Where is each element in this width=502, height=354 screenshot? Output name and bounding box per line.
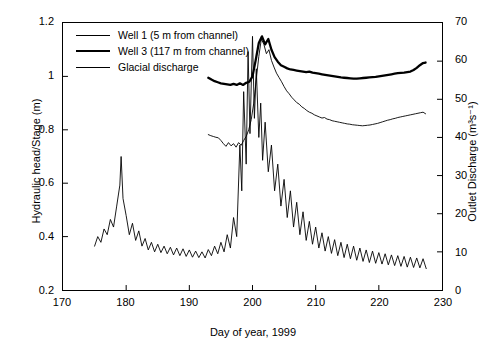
y-axis-right-tick-label: 20 [455, 207, 502, 219]
legend-item-label: Well 1 (5 m from channel) [118, 29, 238, 41]
y-axis-right-tick-label: 0 [455, 284, 502, 296]
legend-item: Well 3 (117 m from channel) [76, 43, 249, 59]
x-axis-tick-label: 220 [350, 296, 410, 308]
y-axis-right-tick-label: 70 [455, 15, 502, 27]
x-axis-tick-label: 230 [413, 296, 473, 308]
y-axis-left-tick-label: 0.2 [0, 284, 54, 296]
legend-item: Glacial discharge [76, 59, 249, 75]
x-axis-tick-label: 170 [32, 296, 92, 308]
y-axis-left-tick-label: 0.8 [0, 123, 54, 135]
x-axis-title: Day of year, 1999 [62, 326, 444, 338]
x-axis-tick-label: 210 [286, 296, 346, 308]
y-axis-left-tick-label: 0.4 [0, 230, 54, 242]
y-axis-left-tick-label: 0.6 [0, 176, 54, 188]
legend-line-swatch [76, 62, 110, 72]
y-axis-right-tick-label: 30 [455, 169, 502, 181]
legend-line-swatch [76, 30, 110, 40]
x-axis-tick-label: 180 [96, 296, 156, 308]
chart-legend: Well 1 (5 m from channel)Well 3 (117 m f… [76, 27, 249, 75]
y-axis-right-tick-label: 40 [455, 130, 502, 142]
y-axis-left-tick-label: 1.2 [0, 15, 54, 27]
legend-line-swatch [76, 46, 110, 56]
legend-item: Well 1 (5 m from channel) [76, 27, 249, 43]
chart-figure: Hydraulic head/Stage (m) Outlet Discharg… [0, 0, 502, 354]
legend-item-label: Glacial discharge [118, 61, 199, 73]
y-axis-right-tick-label: 10 [455, 246, 502, 258]
x-axis-tick-label: 190 [159, 296, 219, 308]
legend-item-label: Well 3 (117 m from channel) [118, 45, 249, 57]
x-axis-tick-label: 200 [223, 296, 283, 308]
y-axis-left-tick-label: 1 [0, 69, 54, 81]
y-axis-right-tick-label: 50 [455, 92, 502, 104]
y-axis-right-tick-label: 60 [455, 53, 502, 65]
